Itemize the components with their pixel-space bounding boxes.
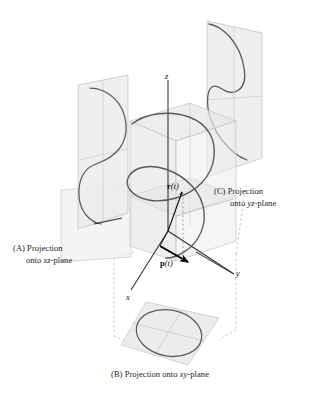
axis-label-z: z xyxy=(165,71,168,81)
caption-b-prefix: (B) Projection onto xyxy=(111,369,180,379)
caption-a-line1: (A) Projection xyxy=(13,243,63,253)
caption-c-line2-prefix: onto xyxy=(230,198,248,208)
caption-a: (A) Projection onto xz-plane xyxy=(13,243,72,266)
caption-c: (C) Projection onto yz-plane xyxy=(214,186,276,209)
caption-a-line2-prefix: onto xyxy=(26,255,44,265)
caption-a-line2: onto xz-plane xyxy=(13,255,72,267)
caption-a-line2-italic: xz xyxy=(44,255,51,265)
vector-label-p-of-t: p(t) xyxy=(160,258,173,268)
vector-label-r-of-t: r(t) xyxy=(167,181,179,191)
plane-a-xz xyxy=(61,75,131,262)
vector-label-r-arg: (t) xyxy=(171,181,179,191)
plane-b-xy xyxy=(121,302,219,365)
caption-c-line2: onto yz-plane xyxy=(214,198,276,210)
caption-a-line2-suffix: -plane xyxy=(51,255,73,265)
axis-label-x: x xyxy=(126,292,130,302)
helix-projection-figure xyxy=(0,0,331,401)
caption-b-suffix: -plane xyxy=(187,369,209,379)
vector-label-p-arg: (t) xyxy=(165,258,173,268)
connector-b-right-foot xyxy=(218,330,236,340)
caption-c-line2-italic: yz xyxy=(248,198,255,208)
caption-c-line1: (C) Projection xyxy=(214,186,263,196)
plane-b-surface xyxy=(121,302,219,365)
caption-c-line2-suffix: -plane xyxy=(255,198,277,208)
caption-b: (B) Projection onto xy-plane xyxy=(111,369,209,381)
axis-y-extension xyxy=(196,252,232,273)
axis-label-y: y xyxy=(236,268,240,278)
